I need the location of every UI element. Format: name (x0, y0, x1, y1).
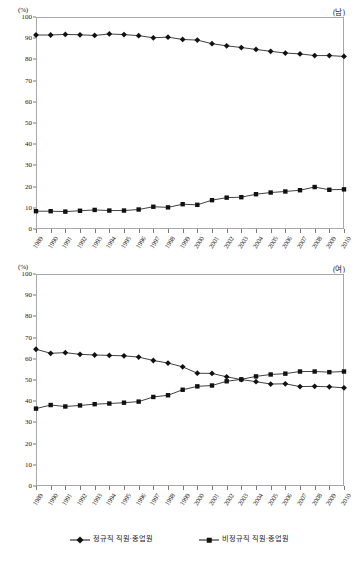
x-axis-tick-mark (197, 229, 198, 233)
series-canvas-female (36, 274, 344, 486)
data-point-square (180, 202, 184, 206)
data-point-diamond (62, 31, 68, 37)
data-point-diamond (209, 371, 215, 377)
x-axis-tick-label: 1996 (134, 235, 147, 250)
x-axis-tick-label: 1989 (31, 235, 44, 250)
x-axis-tick-label: 2009 (325, 492, 338, 507)
x-axis-tick-label: 2003 (237, 235, 250, 250)
data-point-square (92, 402, 96, 406)
data-point-diamond (194, 37, 200, 43)
data-point-square (342, 187, 346, 191)
x-axis-tick-mark (271, 229, 272, 233)
data-point-diamond (48, 350, 54, 356)
x-axis-tick-mark (153, 486, 154, 490)
data-point-diamond (253, 47, 259, 53)
y-axis-tick-mark (33, 17, 36, 18)
data-point-square (34, 406, 38, 410)
x-axis-tick-mark (256, 486, 257, 490)
x-axis-tick-mark (65, 229, 66, 233)
x-axis-tick-label: 2000 (193, 235, 206, 250)
y-axis-tick-label: 70 (25, 334, 32, 342)
data-point-square (224, 379, 228, 383)
y-axis-tick-mark (33, 123, 36, 124)
y-axis-tick-mark (33, 464, 36, 465)
x-axis-tick-label: 2000 (193, 492, 206, 507)
series-line (36, 372, 344, 409)
data-point-square (107, 401, 111, 405)
data-point-square (166, 205, 170, 209)
data-point-diamond (268, 381, 274, 387)
data-point-square (195, 203, 199, 207)
y-axis-tick-label: 90 (25, 291, 32, 299)
y-axis-tick-label: 70 (25, 77, 32, 85)
plot-area-female: 0102030405060708090100198919901991199219… (36, 274, 344, 486)
data-point-diamond (77, 32, 83, 38)
data-point-square (254, 374, 258, 378)
x-axis-tick-mark (344, 486, 345, 490)
x-axis-tick-mark (300, 486, 301, 490)
data-point-square (268, 190, 272, 194)
data-point-square (254, 192, 258, 196)
data-point-square (180, 388, 184, 392)
data-point-diamond (297, 51, 303, 57)
data-point-diamond (33, 346, 39, 352)
y-axis-tick-mark (33, 295, 36, 296)
data-point-diamond (106, 31, 112, 37)
x-axis-tick-label: 2002 (222, 235, 235, 250)
x-axis-tick-mark (227, 229, 228, 233)
x-axis-tick-label: 1998 (163, 492, 176, 507)
data-point-diamond (121, 32, 127, 38)
data-point-square (78, 209, 82, 213)
x-axis-tick-mark (271, 486, 272, 490)
x-axis-tick-mark (168, 486, 169, 490)
x-axis-tick-label: 1990 (46, 492, 59, 507)
y-axis-tick-mark (33, 443, 36, 444)
x-axis-tick-mark (241, 229, 242, 233)
x-axis-tick-label: 1993 (90, 235, 103, 250)
chart-page: (%) (남) 01020304050607080901001989199019… (0, 0, 359, 562)
x-axis-tick-label: 1999 (178, 235, 191, 250)
data-point-diamond (180, 37, 186, 43)
data-point-square (166, 393, 170, 397)
x-axis-tick-mark (329, 229, 330, 233)
y-axis-tick-mark (33, 422, 36, 423)
data-point-square (151, 395, 155, 399)
x-axis-tick-mark (256, 229, 257, 233)
data-point-square (298, 369, 302, 373)
y-axis-tick-mark (33, 38, 36, 39)
x-axis-tick-mark (95, 486, 96, 490)
y-axis-tick-label: 10 (25, 204, 32, 212)
x-axis-tick-mark (124, 229, 125, 233)
x-axis-tick-label: 1994 (105, 492, 118, 507)
x-axis-tick-label: 1999 (178, 492, 191, 507)
x-axis-tick-mark (124, 486, 125, 490)
x-axis-tick-label: 2002 (222, 492, 235, 507)
y-axis-tick-label: 100 (22, 270, 33, 278)
x-axis-tick-label: 2005 (266, 235, 279, 250)
data-point-diamond (326, 53, 332, 59)
data-point-square (107, 208, 111, 212)
x-axis-tick-mark (212, 486, 213, 490)
x-axis-tick-label: 2010 (339, 235, 352, 250)
x-axis-tick-label: 2003 (237, 492, 250, 507)
x-axis-tick-label: 1989 (31, 492, 44, 507)
x-axis-tick-label: 2006 (281, 492, 294, 507)
y-axis-tick-label: 20 (25, 440, 32, 448)
x-axis-tick-label: 1993 (90, 492, 103, 507)
x-axis-tick-mark (212, 229, 213, 233)
x-axis-tick-mark (80, 229, 81, 233)
y-axis-tick-mark (33, 59, 36, 60)
y-axis-tick-label: 60 (25, 355, 32, 363)
x-axis-tick-mark (344, 229, 345, 233)
data-point-square (283, 189, 287, 193)
data-point-diamond (136, 354, 142, 360)
x-axis-tick-mark (65, 486, 66, 490)
x-axis-tick-mark (80, 486, 81, 490)
x-axis-tick-mark (95, 229, 96, 233)
x-axis-tick-mark (241, 486, 242, 490)
x-axis-tick-label: 1996 (134, 492, 147, 507)
data-point-square (327, 370, 331, 374)
data-point-diamond (92, 33, 98, 39)
x-axis-tick-label: 2008 (310, 492, 323, 507)
y-axis-tick-label: 60 (25, 98, 32, 106)
